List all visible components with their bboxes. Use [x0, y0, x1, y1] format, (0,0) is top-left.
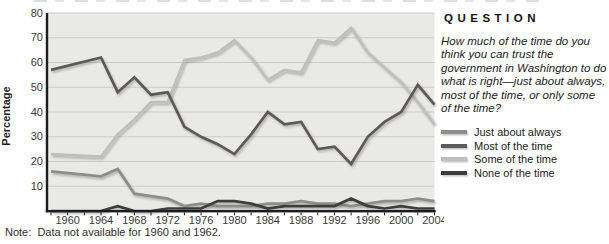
legend-swatch-just-about-always	[441, 130, 467, 134]
x-tick-label: 1988	[289, 214, 313, 226]
y-tick-label: 70	[31, 31, 43, 43]
x-axis	[46, 210, 436, 212]
y-tick-label: 80	[31, 7, 43, 19]
x-tick-label: 2000	[389, 214, 413, 226]
y-tick-label: 50	[31, 81, 43, 93]
y-tick-label: 30	[31, 130, 43, 142]
question-heading: QUESTION	[437, 12, 607, 24]
x-tick-label: 1980	[222, 214, 246, 226]
x-tick-label: 1984	[256, 214, 280, 226]
legend-item-some-of-the-time: Some of the time	[441, 153, 607, 167]
x-tick-label: 1996	[356, 214, 380, 226]
legend-item-most-of-the-time: Most of the time	[441, 139, 607, 153]
question-text: How much of the time do you think you ca…	[437, 35, 607, 116]
y-tick-label: 10	[31, 180, 43, 192]
x-tick-label: 2004	[422, 214, 444, 226]
y-axis	[46, 13, 48, 212]
chart-canvas: 1020304050607080196019641968197219761980…	[0, 0, 444, 244]
legend-label: Most of the time	[474, 140, 552, 152]
x-tick-label: 1972	[155, 214, 179, 226]
question-panel: QUESTION How much of the time do you thi…	[437, 12, 607, 180]
legend-label: Some of the time	[474, 153, 557, 165]
legend-item-none-of-the-time: None of the time	[441, 166, 607, 180]
chart-legend: Just about alwaysMost of the timeSome of…	[437, 126, 607, 180]
y-axis-title: Percentage	[0, 86, 12, 145]
x-tick-label: 1992	[322, 214, 346, 226]
trust-in-government-chart: 1020304050607080196019641968197219761980…	[0, 0, 444, 244]
legend-item-just-about-always: Just about always	[441, 126, 607, 140]
x-tick-label: 1976	[189, 214, 213, 226]
y-tick-label: 40	[31, 106, 43, 118]
footnote: Note: Data not available for 1960 and 19…	[5, 226, 221, 238]
legend-swatch-most-of-the-time	[441, 144, 467, 148]
x-tick-label: 1964	[89, 214, 113, 226]
legend-label: Just about always	[474, 126, 561, 138]
y-tick-label: 60	[31, 56, 43, 68]
legend-swatch-some-of-the-time	[441, 157, 467, 161]
legend-label: None of the time	[474, 167, 555, 179]
y-tick-label: 20	[31, 155, 43, 167]
x-tick-label: 1960	[55, 214, 79, 226]
legend-swatch-none-of-the-time	[441, 171, 467, 175]
x-tick-label: 1968	[122, 214, 146, 226]
